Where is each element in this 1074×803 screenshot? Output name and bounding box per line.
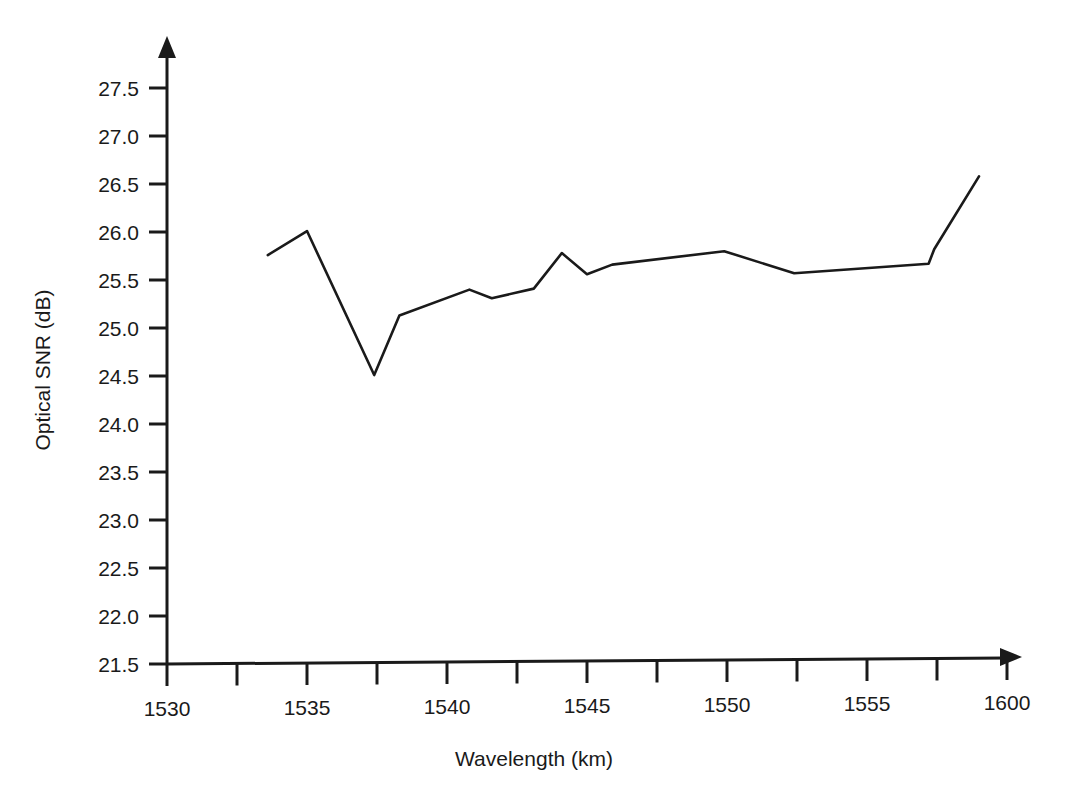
y-tick-label: 27.5 bbox=[0, 78, 139, 99]
chart-figure: 21.522.022.523.023.524.024.525.025.526.0… bbox=[0, 0, 1074, 803]
y-tick-label: 22.5 bbox=[0, 558, 139, 579]
y-ticks-group bbox=[149, 88, 167, 664]
y-tick-label: 26.0 bbox=[0, 222, 139, 243]
plot-area bbox=[0, 0, 1074, 803]
axes-group bbox=[158, 36, 1022, 666]
y-tick-label: 24.5 bbox=[0, 366, 139, 387]
y-tick-label: 24.0 bbox=[0, 414, 139, 435]
y-axis-title: Optical SNR (dB) bbox=[32, 289, 53, 450]
y-axis-arrow-head bbox=[158, 36, 176, 58]
y-tick-label: 21.5 bbox=[0, 654, 139, 675]
x-tick-label: 1540 bbox=[424, 696, 471, 717]
x-tick-label: 1600 bbox=[984, 692, 1031, 713]
y-tick-label: 22.0 bbox=[0, 606, 139, 627]
data-series-group bbox=[268, 176, 979, 375]
y-tick-label: 25.0 bbox=[0, 318, 139, 339]
data-line-optical-snr bbox=[268, 176, 979, 375]
x-axis-title: Wavelength (km) bbox=[0, 748, 1071, 769]
y-tick-label: 26.5 bbox=[0, 174, 139, 195]
x-tick-label: 1545 bbox=[564, 695, 611, 716]
x-axis-arrow-head bbox=[1000, 648, 1022, 666]
x-tick-label: 1535 bbox=[284, 697, 331, 718]
y-tick-label: 25.5 bbox=[0, 270, 139, 291]
x-tick-label: 1550 bbox=[704, 694, 751, 715]
x-tick-label: 1555 bbox=[844, 693, 891, 714]
y-tick-label: 23.5 bbox=[0, 462, 139, 483]
y-tick-label: 23.0 bbox=[0, 510, 139, 531]
y-tick-label: 27.0 bbox=[0, 126, 139, 147]
x-tick-label: 1530 bbox=[144, 698, 191, 719]
